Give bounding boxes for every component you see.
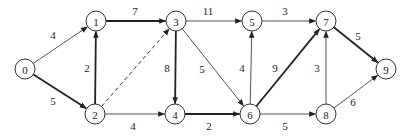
edge-2-to-1 bbox=[95, 31, 96, 104]
edge-weight-2-4: 4 bbox=[130, 120, 136, 132]
edge-weight-3-5: 11 bbox=[203, 5, 214, 17]
edge-0-to-2 bbox=[33, 74, 86, 108]
edge-weight-1-3: 7 bbox=[132, 5, 138, 17]
node-0: 0 bbox=[15, 59, 35, 79]
edge-weight-6-5: 4 bbox=[239, 62, 245, 74]
node-8: 8 bbox=[316, 104, 336, 124]
edge-weight-6-7: 9 bbox=[272, 62, 278, 74]
node-label: 1 bbox=[93, 16, 99, 28]
node-4: 4 bbox=[165, 104, 185, 124]
edge-weight-8-7: 3 bbox=[314, 62, 320, 74]
edge-weight-5-7: 3 bbox=[282, 5, 288, 17]
edge-3-to-6 bbox=[182, 29, 243, 106]
edge-weight-0-2: 5 bbox=[50, 95, 56, 107]
node-label: 4 bbox=[172, 109, 178, 121]
edge-weight-8-9: 6 bbox=[350, 96, 356, 108]
edge-weight-3-6: 5 bbox=[199, 63, 205, 75]
node-5: 5 bbox=[242, 11, 262, 31]
node-label: 7 bbox=[323, 16, 329, 28]
nodes-layer: 0123456789 bbox=[15, 11, 396, 124]
node-label: 5 bbox=[249, 16, 255, 28]
node-label: 9 bbox=[383, 64, 389, 76]
node-9: 9 bbox=[376, 59, 396, 79]
graph-canvas: 45274118524395356 0123456789 bbox=[0, 0, 413, 136]
node-6: 6 bbox=[240, 104, 260, 124]
edge-0-to-1 bbox=[33, 27, 87, 64]
node-3: 3 bbox=[166, 11, 186, 31]
node-label: 6 bbox=[247, 109, 253, 121]
node-label: 8 bbox=[323, 109, 329, 121]
edge-weight-2-1: 2 bbox=[84, 62, 90, 74]
edge-6-to-7 bbox=[256, 29, 319, 106]
edge-weight-3-4: 8 bbox=[164, 62, 170, 74]
node-label: 0 bbox=[22, 64, 28, 76]
edge-2-to-3 bbox=[102, 29, 170, 107]
edge-weight-0-1: 4 bbox=[50, 29, 56, 41]
node-2: 2 bbox=[85, 104, 105, 124]
edge-3-to-4 bbox=[175, 31, 176, 104]
edge-weight-7-9: 5 bbox=[355, 30, 361, 42]
node-label: 3 bbox=[173, 16, 179, 28]
edge-8-to-9 bbox=[334, 75, 378, 108]
node-1: 1 bbox=[86, 11, 106, 31]
edge-weight-4-6: 2 bbox=[206, 120, 212, 132]
edge-6-to-5 bbox=[250, 31, 252, 104]
graph-diagram: 45274118524395356 0123456789 bbox=[0, 0, 413, 136]
edge-weight-6-8: 5 bbox=[282, 120, 288, 132]
node-7: 7 bbox=[316, 11, 336, 31]
node-label: 2 bbox=[92, 109, 98, 121]
